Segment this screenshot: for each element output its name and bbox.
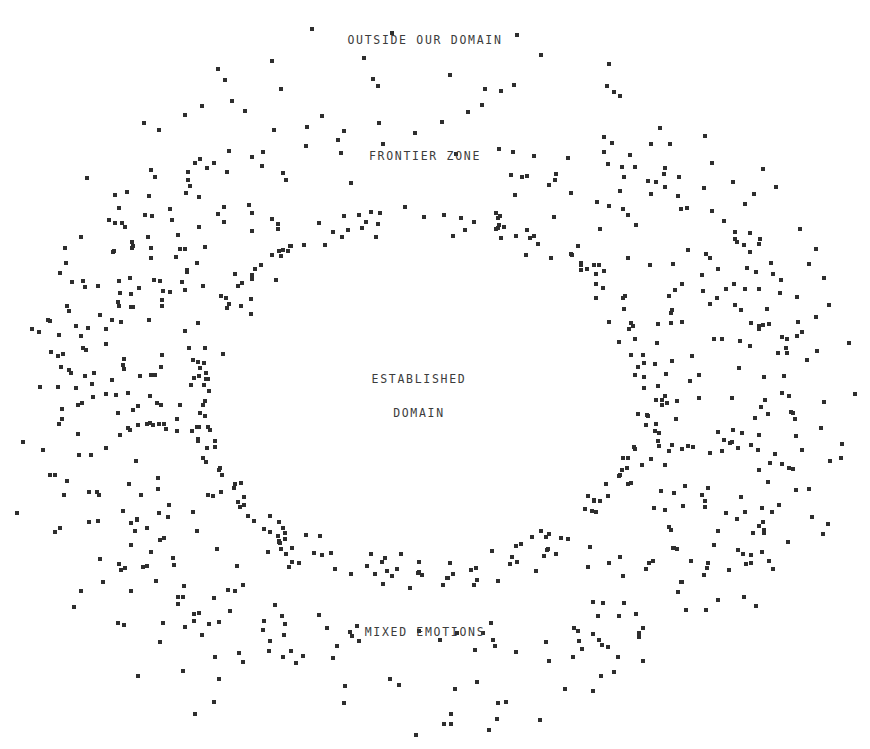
label-outside-our-domain: OUTSIDE OUR DOMAIN [347, 34, 502, 46]
label-frontier-zone: FRONTIER ZONE [369, 150, 481, 162]
label-mixed-emotions: MIXED EMOTIONS [365, 626, 486, 638]
label-established-domain: ESTABLISHEDDOMAIN [372, 373, 467, 419]
label-established-domain-line1: ESTABLISHED [372, 372, 467, 386]
diagram-canvas: OUTSIDE OUR DOMAIN FRONTIER ZONE ESTABLI… [0, 0, 870, 749]
label-established-domain-line2: DOMAIN [372, 407, 467, 419]
